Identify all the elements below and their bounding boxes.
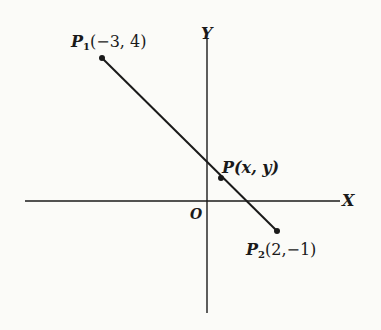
diagram-graphics: [0, 0, 381, 330]
p1-name: P: [71, 32, 83, 51]
point-p1: [99, 55, 105, 61]
origin-label: O: [190, 207, 202, 221]
p1-label: P1(−3, 4): [71, 34, 146, 52]
p1-subscript: 1: [83, 41, 90, 52]
p2-label: P2(2,−1): [246, 242, 316, 260]
p1-coords: (−3, 4): [90, 32, 146, 51]
p-coords: (x, y): [234, 158, 279, 177]
p-name: P: [222, 158, 234, 177]
p2-coords: (2,−1): [265, 240, 316, 259]
p-label: P(x, y): [222, 160, 279, 176]
p2-name: P: [246, 240, 258, 259]
diagram-canvas: Y X O P1(−3, 4) P(x, y) P2(2,−1): [0, 0, 381, 330]
point-p2: [274, 228, 280, 234]
y-axis-label: Y: [201, 26, 212, 42]
p2-subscript: 2: [258, 249, 265, 260]
x-axis-label: X: [342, 193, 354, 209]
